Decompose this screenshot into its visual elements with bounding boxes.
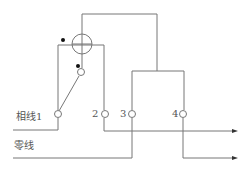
terminal-3 [129,111,136,118]
wiring-diagram: 相线1 零线 2 3 4 [0,0,249,172]
phase-line-label: 相线1 [16,112,42,122]
top-wire [82,14,157,71]
diagram-lines [0,0,249,172]
switch-blade [59,76,79,111]
terminal-4 [180,111,187,118]
terminal-1 [55,111,62,118]
phase-output-wire [104,118,232,131]
arrow-icon [232,129,238,133]
terminal-2 [102,111,109,118]
neutral-line-label: 零线 [14,141,34,151]
terminal-2-label: 2 [92,109,98,119]
polarity-dot [76,64,80,68]
neutral-input-wire [13,118,132,158]
terminal-4-label: 4 [172,109,178,119]
neutral-output-wire [183,118,232,158]
switch-terminal [78,69,85,76]
arrow-icon [232,156,238,160]
right-box [132,71,184,110]
polarity-dot [61,38,65,42]
terminal-3-label: 3 [120,109,126,119]
